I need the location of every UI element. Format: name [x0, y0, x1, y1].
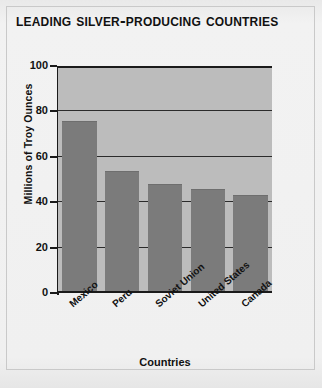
y-axis-tick: [50, 156, 57, 158]
chart-title: Leading Silver-Producing Countries: [16, 11, 286, 30]
plot-area: [58, 66, 272, 293]
y-axis-tick-label: 0: [4, 287, 48, 298]
y-axis-title: Millions of Troy Ounces: [22, 69, 34, 219]
y-axis-tick: [50, 65, 57, 67]
bar: [62, 121, 96, 291]
y-axis-tick-label: 20: [4, 242, 48, 253]
figure-page: Leading Silver-Producing Countries 02040…: [0, 0, 322, 388]
bar: [105, 171, 139, 291]
bar: [148, 184, 182, 291]
y-axis-tick: [50, 110, 57, 112]
y-axis-tick: [50, 292, 57, 294]
y-axis-tick: [50, 247, 57, 249]
plot-top-border: [58, 66, 272, 68]
y-axis-tick: [50, 201, 57, 203]
x-axis-title: Countries: [58, 356, 272, 368]
x-axis-tick-labels: MexicoPeruSoviet UnionUnited StatesCanad…: [58, 295, 272, 365]
bar-series: [58, 66, 272, 293]
